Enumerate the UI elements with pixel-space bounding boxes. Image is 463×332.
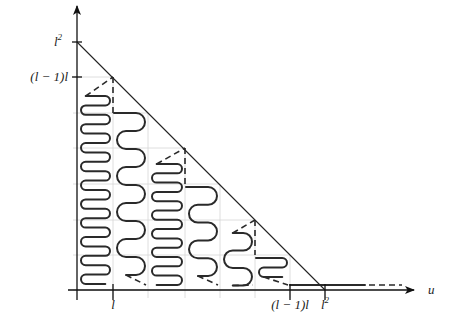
dashed-bottom-connector	[264, 277, 288, 285]
serpentine-col-5	[224, 233, 252, 286]
dashed-bottom-connector	[126, 275, 146, 285]
serpentine-paths	[81, 77, 402, 286]
dashed-bottom-connector	[233, 285, 253, 286]
dashed-top-connector	[157, 148, 185, 164]
serpentine-col-3	[152, 164, 182, 285]
x-axis-label: u	[428, 282, 435, 297]
diagonal-boundary	[77, 42, 325, 290]
serpentine-col-4	[186, 187, 217, 276]
x-tick-label: l2	[321, 295, 330, 312]
y-tick-label: l2	[54, 32, 63, 49]
x-tick-label: (l − 1)l	[271, 297, 309, 312]
dashed-bottom-connector	[198, 276, 218, 285]
serpentine-col-2	[114, 113, 145, 275]
serpentine-triangle-diagram: u l2(l − 1)ll(l − 1)ll2	[0, 0, 463, 332]
serpentine-col-1	[81, 96, 110, 284]
y-tick-label: (l − 1)l	[30, 69, 68, 84]
dashed-top-connector	[86, 77, 113, 96]
dashed-top-connector	[233, 220, 255, 233]
serpentine-col-6	[256, 258, 287, 277]
x-tick-label: l	[111, 297, 115, 312]
